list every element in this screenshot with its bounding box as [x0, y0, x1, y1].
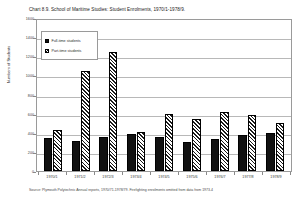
x-axis-tick-label: 1970/1: [38, 175, 66, 184]
legend-item-part-time: Part-time students: [45, 46, 94, 56]
y-axis-title: Numbers of Students: [6, 27, 11, 103]
legend-swatch-part-time-icon: [45, 49, 49, 53]
legend: Full-time students Part-time students: [41, 31, 98, 60]
bar-group: [95, 20, 123, 171]
bar-group: [206, 20, 234, 171]
bar-part-time: [248, 115, 257, 171]
x-axis-tick-label: 1975/6: [178, 175, 206, 184]
bar-part-time: [109, 52, 118, 171]
bar-part-time: [220, 112, 229, 171]
bar-full-time: [183, 142, 192, 171]
x-axis-tick-label: 1971/2: [66, 175, 94, 184]
bar-full-time: [266, 133, 275, 171]
bar-group: [233, 20, 261, 171]
legend-item-full-time: Full-time students: [45, 36, 94, 46]
bar-part-time: [137, 132, 146, 171]
chart-figure: Chart 8.9. School of Maritime Studies: S…: [0, 0, 306, 205]
bar-full-time: [238, 135, 247, 171]
bar-full-time: [99, 137, 108, 171]
x-axis-tick-label: 1977/8: [234, 175, 262, 184]
bar-part-time: [165, 114, 174, 171]
x-axis-tick-label: 1978/9: [262, 175, 290, 184]
legend-label-part-time: Part-time students: [52, 49, 82, 53]
x-axis-tick-label: 1976/7: [206, 175, 234, 184]
source-note: Source: Plymouth Polytechnic Annual repo…: [29, 188, 213, 192]
bar-full-time: [211, 139, 220, 171]
x-axis-tick-label: 1974/5: [150, 175, 178, 184]
bar-full-time: [155, 137, 164, 171]
x-axis-tick-labels: 1970/11971/21972/31973/41974/51975/61976…: [36, 175, 292, 184]
bar-group: [122, 20, 150, 171]
bar-part-time: [81, 71, 90, 171]
bar-group: [178, 20, 206, 171]
bar-full-time: [44, 138, 53, 171]
bar-full-time: [72, 141, 81, 171]
legend-label-full-time: Full-time students: [52, 39, 81, 43]
bar-part-time: [53, 130, 62, 171]
x-axis-tick-label: 1973/4: [122, 175, 150, 184]
x-axis-tick-label: 1972/3: [94, 175, 122, 184]
bar-part-time: [192, 119, 201, 171]
bar-group: [150, 20, 178, 171]
bar-group: [261, 20, 289, 171]
bar-full-time: [127, 134, 136, 171]
legend-swatch-full-time-icon: [45, 39, 49, 43]
bar-part-time: [276, 123, 285, 171]
page-title: Chart 8.9. School of Maritime Studies: S…: [29, 7, 185, 12]
